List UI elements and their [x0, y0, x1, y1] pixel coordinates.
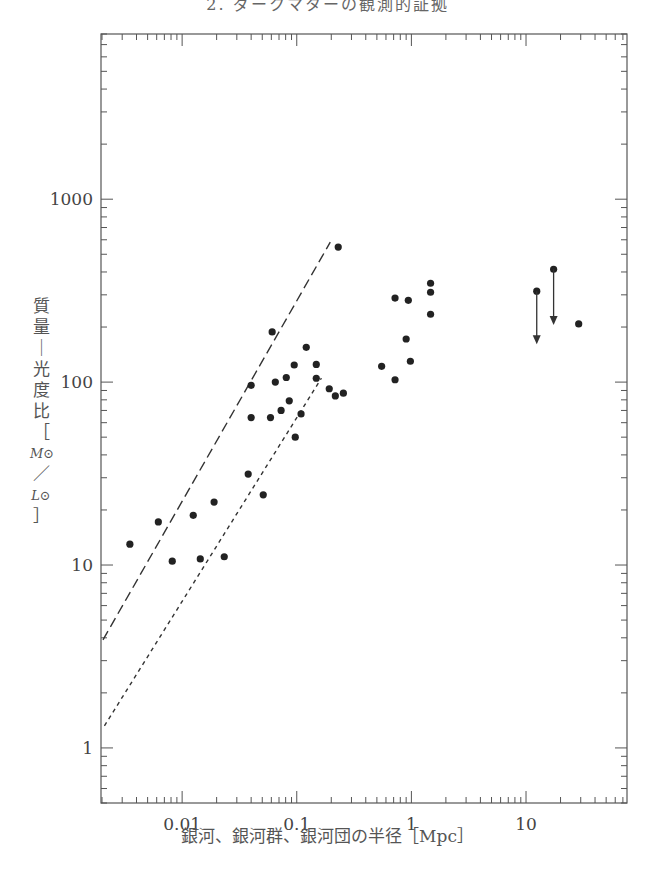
data-point: [221, 553, 228, 560]
y-tick-label: 10: [71, 555, 93, 575]
data-point: [210, 498, 217, 505]
data-point: [407, 358, 414, 365]
y-label-char: 質: [30, 296, 52, 317]
data-point: [286, 397, 293, 404]
data-point: [283, 374, 290, 381]
data-point: [332, 392, 339, 399]
y-tick-label: 1: [82, 738, 93, 758]
data-point: [260, 491, 267, 498]
arrowhead-icon: [550, 316, 558, 325]
y-tick-label: 100: [61, 372, 93, 392]
data-point: [303, 344, 310, 351]
data-point: [391, 294, 398, 301]
data-point: [427, 280, 434, 287]
arrowhead-icon: [533, 335, 541, 344]
data-point: [378, 363, 385, 370]
data-point: [272, 379, 279, 386]
data-point: [297, 410, 304, 417]
x-axis-label: 銀河、銀河群、銀河団の半径［Mpc］: [0, 822, 655, 847]
data-point: [335, 244, 342, 251]
data-point: [326, 385, 333, 392]
tick-labels: 0.010.11101101001000: [50, 189, 537, 834]
data-point: [405, 297, 412, 304]
y-label-char: ／: [30, 464, 52, 485]
data-point: [248, 382, 255, 389]
data-point: [245, 471, 252, 478]
y-axis-label: 質量｜光度比［M⊙／L⊙］: [30, 296, 52, 527]
scatter-chart: 0.010.11101101001000: [0, 0, 655, 876]
data-point: [248, 414, 255, 421]
y-label-char: 度: [30, 380, 52, 401]
data-point: [575, 320, 582, 327]
y-label-char: ［: [30, 422, 52, 443]
data-point: [277, 407, 284, 414]
data-point: [292, 434, 299, 441]
data-point: [126, 541, 133, 548]
data-point: [427, 289, 434, 296]
plot-frame: [101, 34, 627, 803]
data-point: [155, 518, 162, 525]
data-point: [169, 558, 176, 565]
y-label-char: 比: [30, 401, 52, 422]
data-point: [291, 361, 298, 368]
y-tick-label: 1000: [50, 189, 93, 209]
fit-lines: [103, 242, 330, 726]
upper-limit-arrows: [533, 266, 558, 345]
y-label-char: 光: [30, 359, 52, 380]
axis-ticks: [101, 34, 627, 803]
y-label-char: ］: [30, 506, 52, 527]
data-point: [403, 335, 410, 342]
data-point: [190, 512, 197, 519]
y-label-char: M⊙: [30, 443, 52, 464]
data-points: [126, 244, 582, 565]
data-point: [313, 361, 320, 368]
y-label-char: 量: [30, 317, 52, 338]
data-point: [267, 414, 274, 421]
data-point: [340, 390, 347, 397]
data-point: [269, 328, 276, 335]
data-point: [427, 311, 434, 318]
data-point: [313, 375, 320, 382]
y-label-char: ｜: [30, 338, 52, 359]
short-dash-line: [104, 378, 321, 726]
data-point: [391, 376, 398, 383]
long-dash-line: [103, 242, 330, 640]
y-label-char: L⊙: [30, 485, 52, 506]
data-point: [197, 555, 204, 562]
